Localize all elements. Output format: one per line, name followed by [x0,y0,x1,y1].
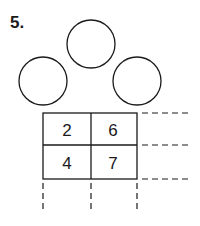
number-grid [43,113,137,179]
circle-right[interactable] [113,57,161,105]
circle-top[interactable] [67,20,115,68]
grid-cell-r2c1: 4 [62,154,71,173]
puzzle-figure: 2 6 4 7 [0,0,200,226]
grid-cell-r1c1: 2 [62,121,71,140]
circle-left[interactable] [19,57,67,105]
grid-cell-r1c2: 6 [108,121,117,140]
grid-cell-r2c2: 7 [108,154,117,173]
